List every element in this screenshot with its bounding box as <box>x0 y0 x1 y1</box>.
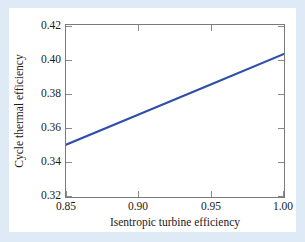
ytick-mark-left <box>66 60 72 61</box>
ytick-label-5: 0.42 <box>41 20 61 32</box>
series-line-path <box>66 54 284 145</box>
ytick-label-2: 0.36 <box>41 122 61 134</box>
xtick-label-2: 0.95 <box>201 201 221 213</box>
ytick-mark-right <box>278 162 284 163</box>
y-axis-label: Cycle thermal efficiency <box>14 54 26 167</box>
ytick-mark-left <box>66 162 72 163</box>
xtick-mark-bottom <box>211 191 212 197</box>
plot-area: 0.32 0.34 0.36 0.38 0.40 0.42 0.85 0.90 … <box>65 24 285 198</box>
ytick-mark-right <box>278 94 284 95</box>
xtick-mark-top <box>211 25 212 31</box>
xtick-label-0: 0.85 <box>56 201 76 213</box>
ytick-label-1: 0.34 <box>41 156 61 168</box>
ytick-mark-right <box>278 128 284 129</box>
xtick-mark-bottom <box>66 191 67 197</box>
xtick-label-1: 0.90 <box>128 201 148 213</box>
xtick-label-3: 1.00 <box>273 201 293 213</box>
ytick-mark-left <box>66 94 72 95</box>
chart-line-series <box>66 25 284 197</box>
ytick-label-3: 0.38 <box>41 88 61 100</box>
xtick-mark-bottom <box>138 191 139 197</box>
ytick-label-4: 0.40 <box>41 54 61 66</box>
ytick-mark-left <box>66 26 72 27</box>
ytick-mark-right <box>278 26 284 27</box>
x-axis-label: Isentropic turbine efficiency <box>110 217 240 229</box>
ytick-mark-right <box>278 60 284 61</box>
xtick-mark-bottom <box>283 191 284 197</box>
ytick-mark-left <box>66 128 72 129</box>
xtick-mark-top <box>138 25 139 31</box>
figure-card: 0.32 0.34 0.36 0.38 0.40 0.42 0.85 0.90 … <box>9 8 296 232</box>
